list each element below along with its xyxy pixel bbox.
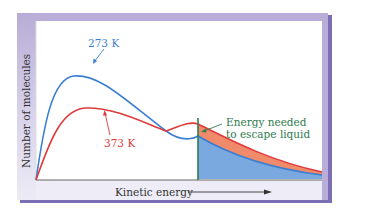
x-axis-label: Kinetic energy [115,186,193,198]
label-273k: 273 K [88,37,119,49]
label-threshold-line2: to escape liquid [226,128,310,140]
label-threshold-line1: Energy needed [226,116,307,128]
x-axis-arrow-icon [188,190,272,195]
chart-svg [0,0,372,217]
label-373k: 373 K [104,137,135,149]
arrow-273k-icon [93,49,104,64]
y-axis-label: Number of molecules [20,54,32,168]
arrow-373k-icon [103,110,110,135]
